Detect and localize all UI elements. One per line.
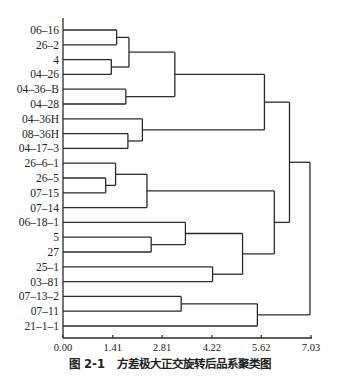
x-tick-label: 5.62	[252, 342, 270, 353]
leaf-label: 25–1	[36, 261, 59, 273]
leaf-label: 04–36–B	[17, 83, 60, 95]
dendrogram-chart: 06–1626–2404–2604–36–B04–2804–36H08–36H0…	[0, 0, 340, 380]
dendrogram-branches	[63, 30, 310, 326]
leaf-label: 4	[53, 54, 59, 66]
x-tick-label: 1.41	[104, 342, 122, 353]
leaf-label: 03–81	[30, 276, 59, 288]
x-axis: 0.001.412.814.225.627.03	[54, 18, 320, 353]
leaf-label: 26–2	[36, 39, 59, 51]
leaf-label: 21–1–1	[25, 320, 60, 332]
leaf-label: 04–28	[30, 98, 59, 110]
leaf-label: 26–6–1	[25, 157, 60, 169]
leaf-label: 27	[48, 246, 60, 258]
caption-number: 图 2-1	[69, 357, 105, 371]
leaf-label: 04–36H	[22, 113, 59, 125]
leaf-label: 26–5	[36, 172, 59, 184]
leaf-label: 07–15	[30, 187, 59, 199]
x-tick-label: 4.22	[203, 342, 221, 353]
leaf-label: 04–17–3	[19, 142, 60, 154]
caption-text: 方差极大正交旋转后品系聚类图	[117, 357, 271, 371]
x-tick-label: 7.03	[302, 342, 320, 353]
leaf-label: 07–13–2	[19, 290, 60, 302]
leaf-label: 07–11	[31, 305, 60, 317]
x-tick-label: 2.81	[153, 342, 171, 353]
leaf-label: 08–36H	[22, 128, 59, 140]
leaf-label: 07–14	[30, 202, 59, 214]
leaf-label: 06–18–1	[19, 216, 60, 228]
leaf-label: 5	[53, 231, 59, 243]
leaf-label: 06–16	[30, 24, 59, 36]
figure-caption: 图 2-1方差极大正交旋转后品系聚类图	[0, 355, 340, 371]
x-tick-label: 0.00	[54, 342, 72, 353]
leaf-labels: 06–1626–2404–2604–36–B04–2804–36H08–36H0…	[17, 24, 60, 332]
leaf-label: 04–26	[30, 68, 59, 80]
